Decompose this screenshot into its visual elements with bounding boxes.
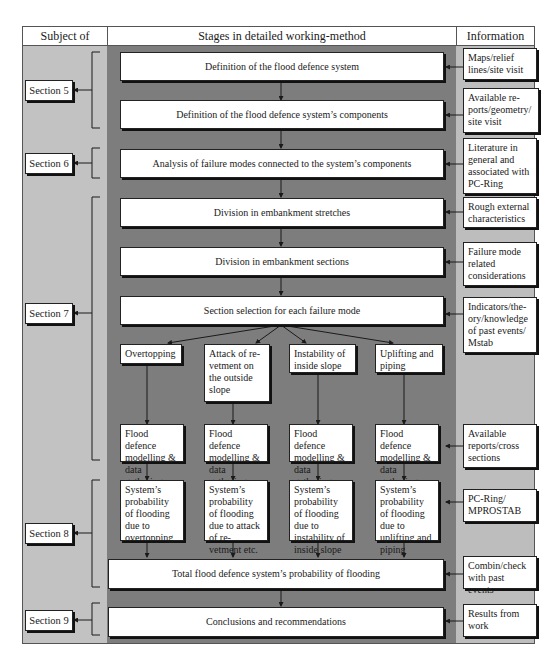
stage-conclusions: Conclusions and recommendations <box>108 607 444 637</box>
stage-definition-components: Definition of the flood defence system’s… <box>120 100 444 129</box>
stage-section-selection: Section selection for each failure mode <box>120 296 444 325</box>
info-available-reports-geometry: Available re-ports/geometry/ site visit <box>463 88 539 133</box>
modelling-overtopping: Flood defence modelling & data gathering <box>120 424 184 462</box>
info-rough-characteristics: Rough external characteristics <box>463 197 537 228</box>
probability-overtopping: System’s probability of flooding due to … <box>120 480 184 541</box>
info-indicators: Indicators/the-ory/knowledge of past eve… <box>463 297 537 353</box>
probability-instability: System’s probability of flooding due to … <box>289 480 353 541</box>
section-8-label: Section 8 <box>25 523 73 544</box>
info-failure-mode-considerations: Failure mode related considerations <box>463 242 537 286</box>
stage-division-sections: Division in embankment sections <box>120 247 444 276</box>
section-5-label: Section 5 <box>25 80 73 101</box>
modelling-uplifting: Flood defence modelling & data gathering <box>375 424 439 462</box>
probability-revetment: System’s probability of flooding due to … <box>204 480 268 541</box>
modelling-instability: Flood defence modelling & data gathering <box>289 424 353 462</box>
probability-uplifting: System’s probability of flooding due to … <box>375 480 439 541</box>
info-results-from-work: Results from work <box>463 604 537 637</box>
failure-mode-instability: Instability of inside slope <box>289 344 356 373</box>
stage-definition-system: Definition of the flood defence system <box>120 52 444 81</box>
failure-mode-uplifting: Uplifting and piping <box>375 344 443 373</box>
stage-total-probability: Total flood defence system’s probability… <box>108 559 444 589</box>
section-7-label: Section 7 <box>25 303 73 324</box>
failure-mode-revetment: Attack of re-vetment on the outside slop… <box>204 344 270 402</box>
failure-mode-overtopping: Overtopping <box>120 344 182 364</box>
stage-division-stretches: Division in embankment stretches <box>120 198 444 227</box>
info-pc-ring-mprostab: PC-Ring/ MPROSTAB <box>463 489 537 522</box>
info-maps: Maps/relief lines/site visit <box>463 48 537 80</box>
section-9-label: Section 9 <box>25 610 73 631</box>
info-combin-check: Combin/check with past events <box>463 556 537 589</box>
info-available-reports-cross: Available reports/cross sections <box>463 424 537 468</box>
stage-analysis-failure-modes: Analysis of failure modes connected to t… <box>120 149 444 178</box>
section-6-label: Section 6 <box>25 153 73 174</box>
info-literature: Literature in general and associated wit… <box>463 138 537 194</box>
modelling-revetment: Flood defence modelling & data gathering <box>204 424 268 462</box>
